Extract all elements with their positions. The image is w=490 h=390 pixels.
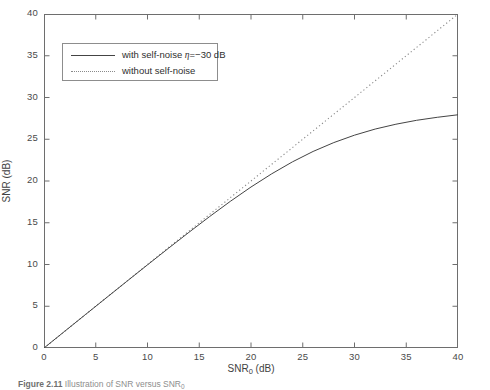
legend-line-sample-dotted bbox=[71, 65, 115, 77]
legend-line-sample-solid bbox=[71, 49, 115, 61]
legend-entry-without-self-noise: without self-noise bbox=[63, 62, 217, 79]
caption-subscript: 0 bbox=[181, 383, 185, 390]
x-tick-label-10: 10 bbox=[142, 351, 153, 362]
legend-entry-with-self-noise: with self-noise η=−30 dB bbox=[63, 46, 217, 63]
x-tick-label-20: 20 bbox=[246, 351, 257, 362]
caption-figure-number: Figure 2.11 bbox=[18, 379, 62, 389]
x-tick-label-40: 40 bbox=[453, 351, 464, 362]
figure-container: 0510152025303540 0510152025303540 SNR0 (… bbox=[0, 0, 490, 390]
caption-text: Illustration of SNR versus SNR bbox=[65, 379, 181, 389]
x-tick-label-30: 30 bbox=[349, 351, 360, 362]
legend-label-without-self-noise: without self-noise bbox=[122, 65, 195, 76]
x-tick-label-25: 25 bbox=[297, 351, 308, 362]
x-tick-label-5: 5 bbox=[93, 351, 98, 362]
chart-legend: with self-noise η=−30 dB without self-no… bbox=[62, 43, 218, 81]
x-tick-label-0: 0 bbox=[41, 351, 46, 362]
legend-label-with-self-noise: with self-noise η=−30 dB bbox=[122, 49, 225, 60]
x-tick-label-35: 35 bbox=[401, 351, 412, 362]
x-axis-title: SNR0 (dB) bbox=[228, 363, 275, 374]
y-axis-title: SNR (dB) bbox=[1, 160, 12, 203]
figure-caption: Figure 2.11 Illustration of SNR versus S… bbox=[18, 379, 185, 390]
x-tick-label-15: 15 bbox=[194, 351, 205, 362]
series-line-with-self-noise bbox=[44, 115, 458, 348]
